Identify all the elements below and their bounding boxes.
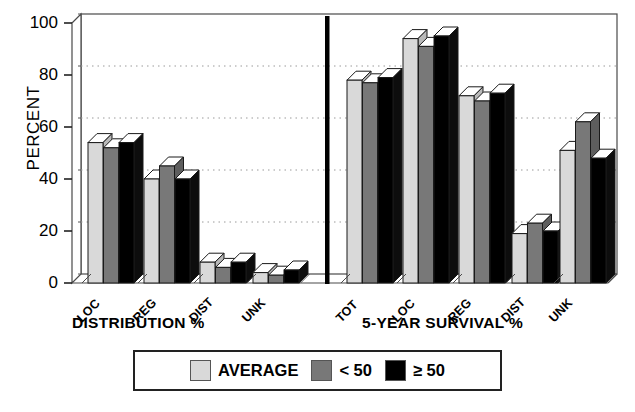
panel-1-axis-title: 5-YEAR SURVIVAL %: [362, 314, 523, 332]
legend-item-2: ≥ 50: [385, 360, 445, 381]
panel-divider: [325, 16, 330, 284]
bar: [490, 84, 514, 283]
legend-swatch-icon-1: [311, 360, 332, 381]
bar: [434, 27, 458, 283]
legend-item-1: < 50: [311, 360, 372, 381]
legend-swatch-icon-2: [385, 360, 406, 381]
bar: [591, 149, 615, 283]
legend-item-0: AVERAGE: [190, 360, 298, 381]
legend-label-0: AVERAGE: [218, 361, 298, 380]
chart-figure: PERCENT 020406080100 LOCREGDISTUNKTOTLOC…: [0, 0, 635, 412]
legend-swatch-icon-0: [190, 360, 211, 381]
panel-0-axis-title: DISTRIBUTION %: [72, 314, 205, 332]
bar: [175, 170, 199, 283]
chart-legend: AVERAGE< 50≥ 50: [133, 350, 502, 391]
bar: [378, 69, 402, 283]
legend-label-2: ≥ 50: [413, 361, 445, 380]
legend-label-1: < 50: [339, 361, 372, 380]
bar: [119, 134, 143, 283]
